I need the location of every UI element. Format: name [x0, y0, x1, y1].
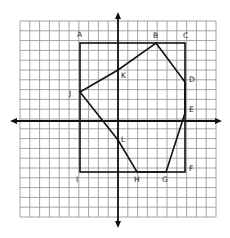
label-k: K: [121, 71, 127, 80]
x-axis-left-arrow-icon: [10, 118, 17, 124]
polygon-bdeghljk: [80, 43, 185, 172]
y-axis-up-arrow-icon: [115, 12, 121, 19]
label-i: I: [76, 175, 78, 184]
label-l: L: [121, 135, 126, 144]
label-f: F: [189, 164, 193, 173]
label-c: C: [183, 31, 188, 40]
y-axis-down-arrow-icon: [115, 221, 121, 228]
label-a: A: [77, 30, 83, 39]
x-axis-right-arrow-icon: [215, 118, 222, 124]
label-h: H: [134, 175, 140, 184]
label-d: D: [189, 75, 195, 84]
label-j: J: [68, 89, 71, 98]
rectangle-acfi: [80, 43, 185, 172]
label-b: B: [153, 31, 158, 40]
label-g: G: [162, 175, 168, 184]
coordinate-grid-diagram: A B C D E F G H I J K L: [0, 0, 230, 238]
label-e: E: [189, 105, 194, 114]
